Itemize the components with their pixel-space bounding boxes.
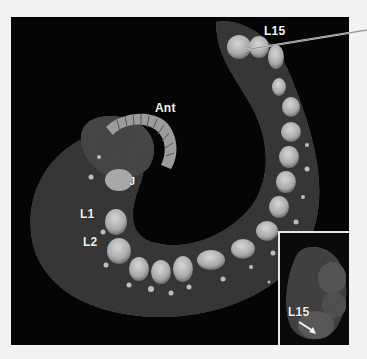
arrow-icon <box>298 321 318 335</box>
label-j: J <box>129 175 135 187</box>
label-antenna: Ant <box>155 101 176 115</box>
micrograph-panel: Ant J L1 L2 L15 L15 <box>11 17 349 345</box>
label-l15-inset: L15 <box>288 305 309 319</box>
inset-panel: L15 <box>278 231 349 345</box>
pointer-line <box>220 26 367 66</box>
label-l2: L2 <box>83 235 97 249</box>
label-l1: L1 <box>80 207 94 221</box>
